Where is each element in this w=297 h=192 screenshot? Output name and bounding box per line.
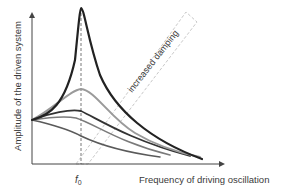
annotation-increased-damping: increased damping (126, 28, 181, 94)
y-axis-label: Amplitude of the driven system (12, 21, 23, 151)
f0-tick-label: f0 (75, 174, 82, 186)
resonance-chart: increased damping Amplitude of the drive… (0, 0, 297, 192)
curve-heavier-damping (32, 117, 170, 155)
x-axis-label: Frequency of driving oscillation (139, 174, 269, 185)
curve-group (32, 8, 202, 159)
